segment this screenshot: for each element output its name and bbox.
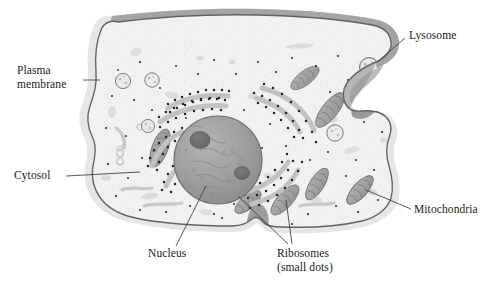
label-cytosol: Cytosol bbox=[14, 169, 51, 183]
lysosome bbox=[141, 119, 154, 132]
nucleolus bbox=[235, 167, 250, 180]
nucleus bbox=[174, 116, 262, 204]
label-lysosome: Lysosome bbox=[409, 29, 456, 43]
label-plasma-membrane: Plasma membrane bbox=[17, 64, 66, 91]
cell-diagram-figure: Plasma membrane Cytosol Nucleus Ribosome… bbox=[0, 0, 499, 283]
lysosome bbox=[145, 73, 159, 87]
lysosome bbox=[327, 125, 343, 141]
label-mitochondria: Mitochondria bbox=[414, 203, 478, 217]
lysosome bbox=[115, 73, 130, 88]
nucleolus bbox=[190, 132, 210, 149]
label-nucleus: Nucleus bbox=[148, 247, 186, 261]
label-ribosomes: Ribosomes (small dots) bbox=[277, 247, 333, 274]
